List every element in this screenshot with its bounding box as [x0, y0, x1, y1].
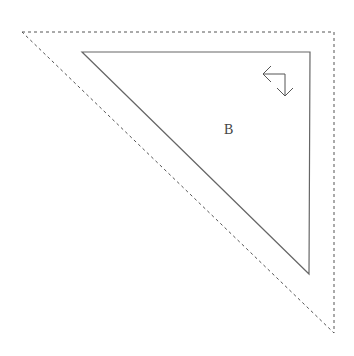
region-label: B [224, 122, 233, 137]
rotate-arrow-icon [263, 66, 293, 96]
outer-dashed-triangle [22, 32, 334, 333]
inner-solid-triangle [82, 52, 310, 274]
triangle-diagram: B [0, 0, 354, 356]
